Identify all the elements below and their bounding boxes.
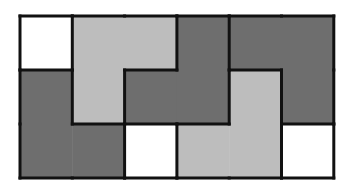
empty-cell-cell [125,124,178,179]
dark-piece-right-cell [229,16,282,71]
light-piece-left-cell [72,70,125,125]
dark-piece-right-cell [282,70,335,125]
dark-piece-right-cell [282,16,335,71]
dark-piece-left-cell [20,70,73,125]
dark-piece-center-cell [125,70,178,125]
light-piece-right-cell [177,124,230,179]
dark-piece-center-cell [177,70,230,125]
empty-cell-cell [282,124,335,179]
dark-piece-center-cell [177,16,230,71]
empty-cell-cell [20,16,73,71]
tiling-puzzle-board [0,0,348,187]
light-piece-left-cell [125,16,178,71]
light-piece-left-cell [72,16,125,71]
light-piece-right-cell [229,124,282,179]
dark-piece-left-cell [72,124,125,179]
dark-piece-left-cell [20,124,73,179]
light-piece-right-cell [229,70,282,125]
